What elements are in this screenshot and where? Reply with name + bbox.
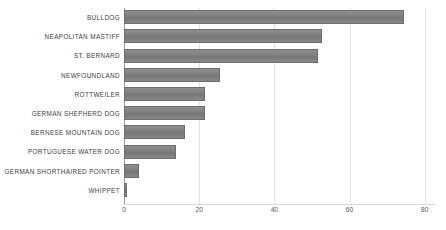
- bar-row: [124, 8, 436, 27]
- category-label: NEWFOUNDLAND: [0, 66, 120, 85]
- bar-row: [124, 181, 436, 200]
- x-tick-label: 20: [196, 206, 203, 213]
- bar: [124, 183, 127, 197]
- category-label: BULLDOG: [0, 8, 120, 27]
- bar-chart: BULLDOGNEAPOLITAN MASTIFFST. BERNARDNEWF…: [0, 0, 446, 230]
- bar-row: [124, 66, 436, 85]
- bar: [124, 125, 185, 139]
- category-label: PORTUGUESE WATER DOG: [0, 142, 120, 161]
- x-tick-label: 40: [271, 206, 278, 213]
- bar-row: [124, 104, 436, 123]
- bar: [124, 106, 205, 120]
- x-tick-label: 80: [421, 206, 428, 213]
- bar-row: [124, 142, 436, 161]
- bar: [124, 145, 176, 159]
- category-label: BERNESE MOUNTAIN DOG: [0, 123, 120, 142]
- bar: [124, 87, 205, 101]
- bars: [124, 8, 436, 204]
- category-label: GERMAN SHORTHAIRED POINTER: [0, 162, 120, 181]
- category-label: ST. BERNARD: [0, 46, 120, 65]
- x-tick-label: 0: [122, 206, 126, 213]
- category-label: ROTTWEILER: [0, 85, 120, 104]
- bar: [124, 68, 220, 82]
- bar-row: [124, 162, 436, 181]
- x-axis-line: [124, 204, 436, 205]
- x-axis-tick-labels: 020406080: [0, 206, 446, 222]
- plot-area: [124, 8, 436, 204]
- category-label: WHIPPET: [0, 181, 120, 200]
- bar: [124, 49, 318, 63]
- bar-row: [124, 46, 436, 65]
- bar: [124, 164, 139, 178]
- bar-row: [124, 123, 436, 142]
- bar-row: [124, 85, 436, 104]
- category-label: GERMAN SHEPHERD DOG: [0, 104, 120, 123]
- bar-row: [124, 27, 436, 46]
- bar: [124, 29, 322, 43]
- category-axis-labels: BULLDOGNEAPOLITAN MASTIFFST. BERNARDNEWF…: [0, 8, 120, 204]
- x-tick-label: 60: [346, 206, 353, 213]
- bar: [124, 10, 404, 24]
- category-label: NEAPOLITAN MASTIFF: [0, 27, 120, 46]
